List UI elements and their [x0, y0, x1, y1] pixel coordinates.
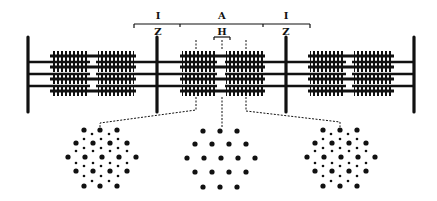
label-i-band-right: I: [284, 10, 289, 21]
section-leader-lines: [100, 40, 340, 127]
label-h-zone: H: [217, 26, 226, 37]
leader-line-right: [246, 97, 340, 127]
label-a-band: A: [217, 10, 226, 21]
cross-section-left: [65, 127, 138, 188]
leader-line-left: [100, 97, 196, 127]
cross-section-right: [304, 127, 377, 188]
band-labels: I A I Z H Z: [134, 10, 310, 40]
label-i-band-left: I: [156, 10, 161, 21]
label-z-line-right: Z: [282, 26, 289, 37]
sarcomere-diagram: I A I Z H Z: [0, 0, 437, 201]
label-z-line-left: Z: [154, 26, 161, 37]
cross-section-center: [184, 128, 257, 189]
